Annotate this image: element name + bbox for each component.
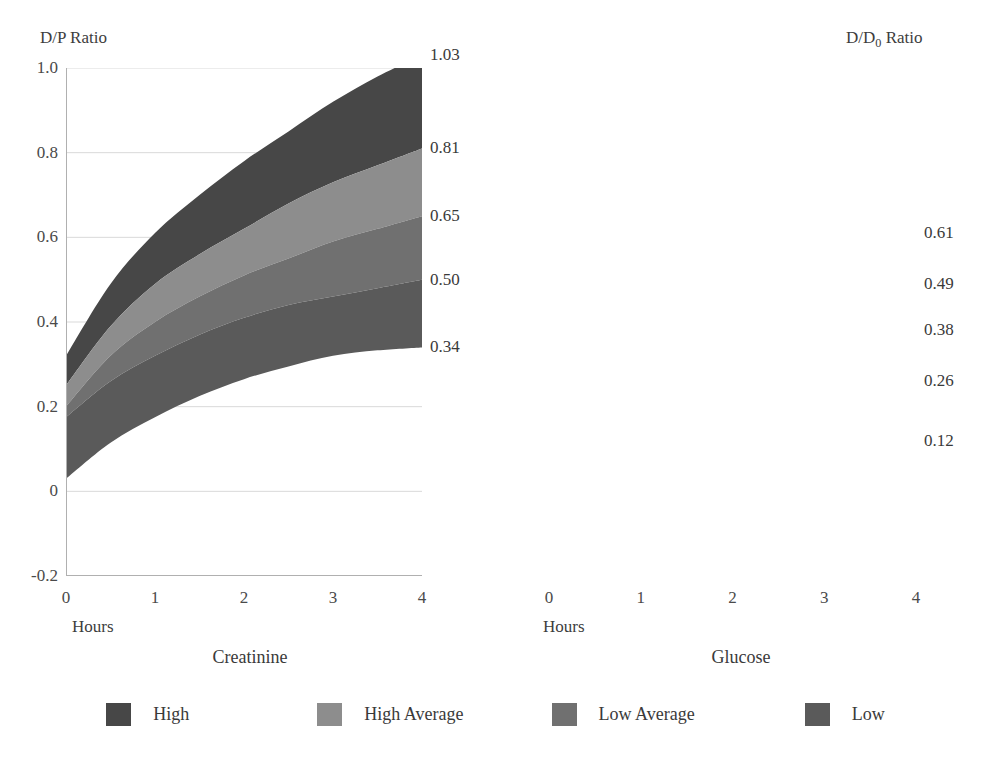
legend-item-low-average[interactable]: Low Average [552,703,695,726]
legend-label: Low Average [599,704,695,725]
legend-item-high-average[interactable]: High Average [317,703,463,726]
legend-swatch-icon [552,703,577,726]
left-y-tick-label: 0.6 [8,227,58,247]
right-band-value-label: 0.49 [924,274,954,294]
left-yaxis-title: D/P Ratio [40,28,107,48]
chart-page: D/P Ratio 1.00.80.60.40.20-0.2 1.030.810… [0,0,991,769]
right-band-value-label: 0.61 [924,223,954,243]
left-plot-area [66,68,422,576]
right-x-tick-label: 0 [545,588,554,608]
legend-label: High Average [364,704,463,725]
left-y-tick-label: 0.4 [8,312,58,332]
legend-swatch-icon [106,703,131,726]
chart-panel-creatinine: D/P Ratio 1.00.80.60.40.20-0.2 1.030.810… [0,0,500,690]
left-x-tick-label: 1 [151,588,160,608]
left-x-tick-label: 4 [418,588,427,608]
legend-swatch-icon [317,703,342,726]
left-band-value-label: 0.65 [430,206,460,226]
chart-legend: HighHigh AverageLow AverageLow [0,694,991,734]
right-yaxis-title-prefix: D/D [846,28,875,47]
left-y-tick-label: 0 [8,481,58,501]
left-x-tick-label: 3 [329,588,338,608]
right-xaxis-label: Hours [543,617,585,637]
right-yaxis-title-suffix: Ratio [881,28,922,47]
left-x-tick-label: 0 [62,588,71,608]
right-x-tick-label: 4 [912,588,921,608]
right-band-value-label: 0.38 [924,320,954,340]
left-y-tick-label: -0.2 [8,566,58,586]
left-panel-title: Creatinine [0,647,500,668]
left-area-chart [66,68,422,576]
left-band-value-label: 0.50 [430,270,460,290]
left-band-value-label: 1.03 [430,45,460,65]
left-xaxis-label: Hours [72,617,114,637]
right-band-value-label: 0.12 [924,431,954,451]
right-x-tick-label: 2 [728,588,737,608]
legend-label: High [153,704,189,725]
right-panel-title: Glucose [541,647,941,668]
left-y-tick-label: 0.2 [8,397,58,417]
left-band-value-label: 0.81 [430,138,460,158]
left-y-tick-label: 0.8 [8,143,58,163]
legend-swatch-icon [805,703,830,726]
legend-label: Low [852,704,885,725]
left-band-value-label: 0.34 [430,337,460,357]
left-x-tick-label: 2 [240,588,249,608]
right-yaxis-title: D/D0 Ratio [846,28,923,51]
right-x-tick-label: 3 [820,588,829,608]
legend-item-high[interactable]: High [106,703,189,726]
right-band-value-label: 0.26 [924,371,954,391]
legend-item-low[interactable]: Low [805,703,885,726]
left-y-tick-label: 1.0 [8,58,58,78]
chart-panel-glucose: D/D0 Ratio 0.610.490.380.260.12 01234 Ho… [491,0,991,690]
right-x-tick-label: 1 [637,588,646,608]
